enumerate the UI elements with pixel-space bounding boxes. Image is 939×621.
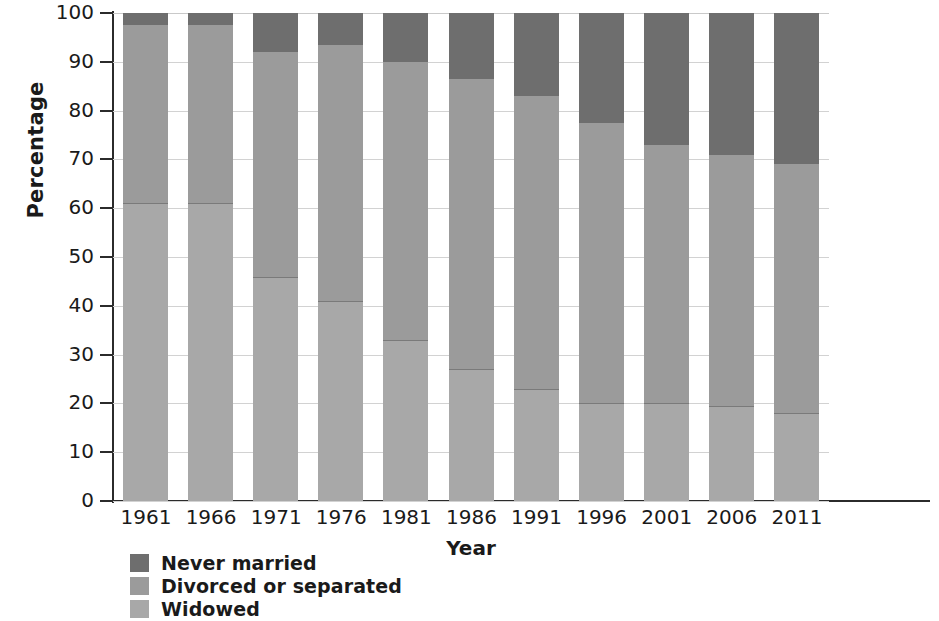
y-tick-label: 20 [40, 390, 94, 414]
legend-swatch-icon [130, 554, 149, 572]
y-tick-label: 40 [40, 293, 94, 317]
y-tick-mark [100, 110, 113, 112]
bar-2006 [709, 13, 754, 501]
y-tick-label: 90 [40, 49, 94, 73]
bar-1976 [318, 13, 363, 501]
y-tick-mark [100, 207, 113, 209]
y-tick-label: 0 [40, 488, 94, 512]
bar-segment-divorced-or-separated [123, 25, 168, 203]
y-tick-label: 70 [40, 146, 94, 170]
x-axis-title-text: Year [446, 536, 496, 560]
x-tick-label: 1961 [113, 505, 179, 529]
y-tick-label: 60 [40, 195, 94, 219]
legend-label: Widowed [161, 598, 260, 620]
y-tick-label: 50 [40, 244, 94, 268]
bar-segment-widowed [449, 369, 494, 501]
bar-segment-never-married [774, 13, 819, 164]
bar-segment-widowed [123, 203, 168, 501]
y-tick-mark [100, 500, 113, 502]
y-tick-label: 100 [40, 0, 94, 24]
y-axis-title: Percentage [0, 0, 22, 150]
bar-segment-divorced-or-separated [514, 96, 559, 389]
bar-1996 [579, 13, 624, 501]
bar-1966 [188, 13, 233, 501]
y-tick-label: 30 [40, 342, 94, 366]
bar-segment-widowed [514, 389, 559, 501]
bar-1991 [514, 13, 559, 501]
bar-segment-never-married [383, 13, 428, 62]
y-tick-mark [100, 305, 113, 307]
chart-legend: Never marriedDivorced or separatedWidowe… [130, 552, 402, 621]
bar-segment-never-married [253, 13, 298, 52]
bar-segment-never-married [123, 13, 168, 25]
bar-segment-never-married [318, 13, 363, 45]
y-tick-mark [100, 12, 113, 14]
bar-segment-divorced-or-separated [774, 164, 819, 413]
bar-segment-widowed [774, 413, 819, 501]
bar-segment-widowed [188, 203, 233, 501]
x-tick-label: 1966 [178, 505, 244, 529]
y-tick-label: 80 [40, 98, 94, 122]
bar-segment-widowed [579, 403, 624, 501]
x-tick-label: 1986 [438, 505, 504, 529]
bar-segment-widowed [253, 277, 298, 501]
bar-segment-divorced-or-separated [579, 123, 624, 404]
x-tick-label: 2001 [634, 505, 700, 529]
x-tick-label: 1981 [373, 505, 439, 529]
chart-container: Percentage 0102030405060708090100 196119… [0, 0, 939, 621]
y-tick-mark [100, 354, 113, 356]
bar-segment-never-married [579, 13, 624, 123]
y-tick-mark [100, 451, 113, 453]
legend-item: Divorced or separated [130, 575, 402, 597]
bar-segment-divorced-or-separated [709, 155, 754, 406]
bar-segment-never-married [449, 13, 494, 79]
bar-segment-widowed [318, 301, 363, 501]
bar-segment-never-married [644, 13, 689, 145]
legend-swatch-icon [130, 577, 149, 595]
bar-segment-divorced-or-separated [644, 145, 689, 404]
legend-label: Never married [161, 552, 317, 574]
x-tick-label: 1976 [308, 505, 374, 529]
bar-1981 [383, 13, 428, 501]
x-tick-label: 2011 [764, 505, 830, 529]
bar-segment-widowed [709, 406, 754, 501]
bar-segment-divorced-or-separated [188, 25, 233, 203]
y-tick-mark [100, 61, 113, 63]
x-tick-label: 1971 [243, 505, 309, 529]
y-tick-mark [100, 256, 113, 258]
bar-1961 [123, 13, 168, 501]
bar-2011 [774, 13, 819, 501]
y-tick-mark [100, 158, 113, 160]
plot-area [113, 13, 829, 501]
x-tick-label: 1996 [569, 505, 635, 529]
gridline [113, 501, 829, 502]
bar-segment-never-married [709, 13, 754, 155]
bar-segment-divorced-or-separated [383, 62, 428, 340]
bar-segment-divorced-or-separated [253, 52, 298, 276]
legend-item: Widowed [130, 598, 402, 620]
legend-item: Never married [130, 552, 402, 574]
y-tick-label: 10 [40, 439, 94, 463]
bar-segment-never-married [188, 13, 233, 25]
bar-segment-widowed [644, 403, 689, 501]
x-tick-label: 2006 [699, 505, 765, 529]
bar-segment-divorced-or-separated [318, 45, 363, 301]
bar-segment-never-married [514, 13, 559, 96]
legend-label: Divorced or separated [161, 575, 402, 597]
bar-1971 [253, 13, 298, 501]
x-tick-label: 1991 [504, 505, 570, 529]
bar-segment-divorced-or-separated [449, 79, 494, 369]
y-tick-mark [100, 402, 113, 404]
legend-swatch-icon [130, 600, 149, 618]
bar-2001 [644, 13, 689, 501]
bar-1986 [449, 13, 494, 501]
bar-segment-widowed [383, 340, 428, 501]
